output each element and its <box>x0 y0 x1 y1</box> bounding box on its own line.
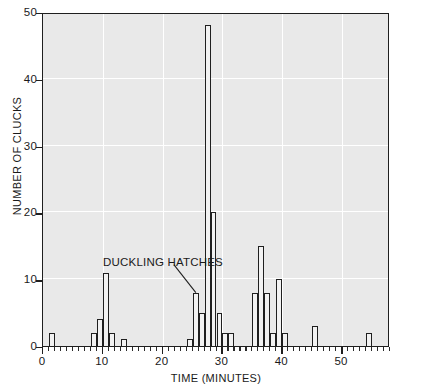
x-tick-minor <box>245 347 246 351</box>
y-axis-title: NUMBER OF CLUCKS <box>11 86 23 226</box>
y-tick-label: 0 <box>7 341 37 353</box>
x-tick-minor <box>269 347 270 351</box>
x-tick-minor <box>239 347 240 351</box>
x-tick-minor <box>198 347 199 351</box>
x-tick-minor <box>263 347 264 351</box>
x-tick-major <box>221 347 222 354</box>
x-tick-minor <box>174 347 175 351</box>
plot-area <box>42 13 389 347</box>
x-tick-major <box>281 347 282 354</box>
x-tick-minor <box>299 347 300 351</box>
x-axis-ticks <box>42 347 389 354</box>
x-tick-minor <box>311 347 312 351</box>
x-tick-label: 40 <box>261 355 301 367</box>
x-tick-minor <box>210 347 211 351</box>
x-tick-minor <box>54 347 55 351</box>
x-tick-label: 10 <box>82 355 122 367</box>
x-tick-minor <box>204 347 205 351</box>
x-tick-minor <box>216 347 217 351</box>
y-tick-label: 10 <box>7 274 37 286</box>
x-tick-minor <box>233 347 234 351</box>
x-tick-minor <box>138 347 139 351</box>
y-tick-label: 20 <box>7 207 37 219</box>
x-tick-minor <box>168 347 169 351</box>
x-tick-minor <box>383 347 384 351</box>
y-tick-label: 40 <box>7 74 37 86</box>
x-tick-minor <box>389 347 390 351</box>
x-tick-minor <box>48 347 49 351</box>
x-tick-minor <box>377 347 378 351</box>
x-tick-minor <box>353 347 354 351</box>
x-tick-minor <box>347 347 348 351</box>
y-tick-label: 50 <box>7 7 37 19</box>
x-tick-minor <box>305 347 306 351</box>
x-tick-minor <box>120 347 121 351</box>
x-axis-title: TIME (MINUTES) <box>0 372 432 384</box>
x-tick-major <box>341 347 342 354</box>
x-tick-label: 20 <box>142 355 182 367</box>
x-tick-minor <box>72 347 73 351</box>
x-tick-major <box>42 347 43 354</box>
x-tick-minor <box>365 347 366 351</box>
x-tick-minor <box>126 347 127 351</box>
x-tick-minor <box>317 347 318 351</box>
x-tick-minor <box>329 347 330 351</box>
x-tick-minor <box>114 347 115 351</box>
y-tick-label: 30 <box>7 141 37 153</box>
x-tick-minor <box>275 347 276 351</box>
x-tick-minor <box>84 347 85 351</box>
x-tick-major <box>102 347 103 354</box>
x-tick-minor <box>186 347 187 351</box>
x-tick-minor <box>144 347 145 351</box>
x-tick-label: 30 <box>201 355 241 367</box>
x-tick-minor <box>293 347 294 351</box>
x-tick-minor <box>96 347 97 351</box>
x-tick-minor <box>257 347 258 351</box>
x-tick-major <box>162 347 163 354</box>
x-tick-minor <box>287 347 288 351</box>
x-tick-minor <box>192 347 193 351</box>
x-tick-minor <box>78 347 79 351</box>
x-tick-minor <box>132 347 133 351</box>
x-tick-minor <box>90 347 91 351</box>
annotation-duckling-hatches: DUCKLING HATCHES <box>103 256 223 268</box>
x-tick-minor <box>180 347 181 351</box>
x-tick-minor <box>108 347 109 351</box>
x-tick-minor <box>251 347 252 351</box>
histogram-figure: NUMBER OF CLUCKS 01020304050 DUCKLING HA… <box>0 0 432 391</box>
x-tick-minor <box>60 347 61 351</box>
x-tick-label: 50 <box>321 355 361 367</box>
x-tick-minor <box>335 347 336 351</box>
x-tick-minor <box>371 347 372 351</box>
x-tick-minor <box>66 347 67 351</box>
annotation-leader-line <box>43 14 390 348</box>
leader-line <box>174 265 196 293</box>
x-tick-minor <box>227 347 228 351</box>
x-tick-label: 0 <box>22 355 62 367</box>
x-tick-minor <box>156 347 157 351</box>
x-tick-minor <box>150 347 151 351</box>
x-tick-minor <box>323 347 324 351</box>
x-tick-minor <box>359 347 360 351</box>
